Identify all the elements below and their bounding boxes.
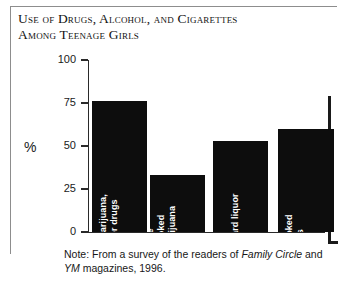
note-italic-family-circle: Family Circle xyxy=(241,248,302,260)
y-axis-tick-label: 75 xyxy=(36,97,76,108)
bar-label-line: have smoked xyxy=(284,179,295,232)
bar-label-line: smoked xyxy=(156,203,167,232)
bar-label-line: 53% xyxy=(219,185,230,232)
y-axis-tick-label: 0 xyxy=(36,226,76,237)
y-axis-title: % xyxy=(24,139,36,155)
bar-label-text: 60%have smokedcigarettes xyxy=(278,179,306,232)
note-prefix: Note: From a survey of the readers of xyxy=(64,248,241,260)
bar-label-text: Almost 33%havesmokedmarijuana xyxy=(150,203,178,232)
bar-label-text: 53%drink hard liquor xyxy=(219,185,241,232)
y-axis-tick xyxy=(81,231,88,232)
x-axis-line xyxy=(88,232,325,233)
y-axis-tick-label: 25 xyxy=(36,183,76,194)
bar-label-line: marijuana xyxy=(167,203,178,232)
bar-label: 76%have tried marijuana,beer, or other d… xyxy=(92,166,120,232)
bar-label: 53%drink hard liquor xyxy=(219,185,241,232)
chart-title: Use of Drugs, Alcohol, and Cigarettes Am… xyxy=(18,11,318,43)
bar-label: 60%have smokedcigarettes xyxy=(278,179,306,232)
y-axis-tick-label: 100 xyxy=(36,54,76,65)
chart-note: Note: From a survey of the readers of Fa… xyxy=(64,247,336,275)
bar-label-text: 76%have tried marijuana,beer, or other d… xyxy=(92,166,120,232)
frame-left-border xyxy=(10,6,11,254)
bar-label: Almost 33%havesmokedmarijuana xyxy=(150,203,178,232)
y-axis-tick xyxy=(81,102,88,103)
chart-title-line-2: Among Teenage Girls xyxy=(18,27,318,43)
plot-area: 76%have tried marijuana,beer, or other d… xyxy=(88,60,325,232)
note-middle: and xyxy=(302,248,322,260)
y-axis-tick-label: 50 xyxy=(36,140,76,151)
bar: 53%drink hard liquor xyxy=(213,141,268,232)
bar-label-line: cigarettes xyxy=(295,179,306,232)
bar-label-line: have tried marijuana, xyxy=(98,166,109,232)
y-axis-tick xyxy=(81,145,88,146)
chart-title-line-1: Use of Drugs, Alcohol, and Cigarettes xyxy=(18,11,318,27)
y-axis-tick xyxy=(81,59,88,60)
bar: Almost 33%havesmokedmarijuana xyxy=(150,175,205,232)
bar-label-line: 76% xyxy=(92,166,98,232)
bar-label-line: have xyxy=(150,203,156,232)
y-axis-tick xyxy=(81,188,88,189)
chart-figure: Use of Drugs, Alcohol, and Cigarettes Am… xyxy=(0,0,351,286)
bar: 76%have tried marijuana,beer, or other d… xyxy=(92,101,147,232)
frame-corner-mark xyxy=(328,241,338,244)
note-italic-ym: YM xyxy=(64,262,80,274)
bar-label-line: beer, or other drugs xyxy=(109,166,120,232)
bar-label-line: drink hard liquor xyxy=(230,185,241,232)
bar: 60%have smokedcigarettes xyxy=(278,129,334,232)
note-suffix: magazines, 1996. xyxy=(80,262,166,274)
frame-top-border xyxy=(10,6,337,7)
